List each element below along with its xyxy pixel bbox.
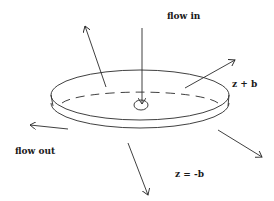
outflow-arrow-down: [128, 143, 148, 195]
top-disk-front-arc: [51, 95, 229, 120]
radial-flow-diagram: flow in z + b flow out z = -b: [0, 0, 274, 201]
outflow-arrow-upper-right: [185, 60, 235, 88]
flow-in-label: flow in: [167, 11, 201, 21]
flow-out-label: flow out: [15, 146, 56, 156]
top-plane-label: z + b: [232, 79, 257, 89]
outflow-arrow-lower-right: [218, 130, 262, 157]
mid-plane-dashed-ellipse: [62, 92, 218, 103]
top-disk-back-arc: [51, 70, 229, 95]
outflow-arrow-left: [30, 125, 68, 129]
inlet-circle: [134, 100, 148, 110]
bottom-plane-label: z = -b: [175, 169, 204, 179]
outflow-arrow-upper-left: [85, 26, 106, 87]
bottom-disk-ellipse: [51, 103, 229, 128]
